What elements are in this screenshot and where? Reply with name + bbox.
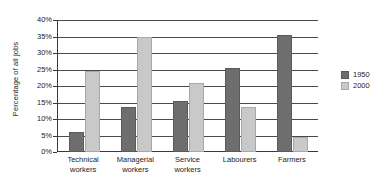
bar-group <box>110 20 162 152</box>
bar-1950 <box>121 107 136 152</box>
x-axis-tick-labels: TechnicalworkersManagerialworkersService… <box>57 155 318 174</box>
bar-group <box>162 20 214 152</box>
bar-2000 <box>241 107 256 152</box>
y-axis-tick-mark <box>53 70 57 71</box>
y-axis-tick-mark <box>53 136 57 137</box>
bar-1950 <box>69 132 84 152</box>
y-axis-tick-mark <box>53 37 57 38</box>
bar-groups <box>58 20 318 152</box>
y-axis-tick-mark <box>53 152 57 153</box>
bar-group <box>58 20 110 152</box>
x-axis-tick-label-line: Labourers <box>214 155 266 165</box>
y-axis-tick-label: 5% <box>22 132 52 140</box>
y-axis-tick-label: 0% <box>22 148 52 156</box>
x-axis-tick-label-line: workers <box>109 165 161 175</box>
y-axis-tick-mark <box>53 103 57 104</box>
y-axis-tick-label: 25% <box>22 66 52 74</box>
bar-2000 <box>293 137 308 152</box>
legend-entry-2000[interactable]: 2000 <box>341 81 370 90</box>
bar-2000 <box>137 37 152 153</box>
bar-group <box>214 20 266 152</box>
legend-label: 1950 <box>353 70 370 79</box>
bar-1950 <box>173 101 188 152</box>
y-axis-tick-label: 15% <box>22 99 52 107</box>
bar-1950 <box>225 68 240 152</box>
y-axis-tick-label: 40% <box>22 16 52 24</box>
legend-swatch-icon <box>341 82 349 90</box>
y-axis-tick-mark <box>53 119 57 120</box>
y-axis-tick-label: 30% <box>22 49 52 57</box>
plot-area <box>57 20 318 152</box>
y-axis-tick-mark <box>53 20 57 21</box>
x-axis-tick-label: Farmers <box>266 155 318 174</box>
bar-1950 <box>277 35 292 152</box>
x-axis-tick-label-line: workers <box>161 165 213 175</box>
bar-chart: Percentage of all jobs 0%5%10%15%20%25%3… <box>0 0 388 195</box>
y-axis-tick-label: 35% <box>22 33 52 41</box>
bar-2000 <box>189 83 204 152</box>
y-axis-tick-mark <box>53 86 57 87</box>
x-axis-tick-label-line: Service <box>161 155 213 165</box>
y-axis-tick-label: 20% <box>22 82 52 90</box>
bar-2000 <box>85 71 100 152</box>
legend: 19502000 <box>341 70 370 90</box>
x-axis-tick-label: Labourers <box>214 155 266 174</box>
y-axis-tick-label: 10% <box>22 115 52 123</box>
x-axis-tick-label-line: Technical <box>57 155 109 165</box>
y-axis-title: Percentage of all jobs <box>9 4 23 154</box>
legend-swatch-icon <box>341 71 349 79</box>
x-axis-tick-label: Technicalworkers <box>57 155 109 174</box>
x-axis-tick-label-line: Farmers <box>266 155 318 165</box>
legend-label: 2000 <box>353 81 370 90</box>
x-axis-tick-label-line: workers <box>57 165 109 175</box>
bar-group <box>266 20 318 152</box>
x-axis-tick-label: Serviceworkers <box>161 155 213 174</box>
y-axis-tick-mark <box>53 53 57 54</box>
x-axis-tick-label-line: Managerial <box>109 155 161 165</box>
x-axis-tick-label: Managerialworkers <box>109 155 161 174</box>
y-axis-tick-labels: 0%5%10%15%20%25%30%35%40% <box>22 20 52 152</box>
legend-entry-1950[interactable]: 1950 <box>341 70 370 79</box>
